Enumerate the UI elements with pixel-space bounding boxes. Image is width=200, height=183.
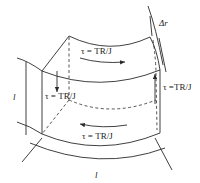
thickness-line-outer xyxy=(148,6,163,65)
top-back-arc xyxy=(69,36,150,46)
width-ext-left xyxy=(22,138,42,162)
bottom-stress-arrow xyxy=(80,124,127,127)
thickness-line-inner xyxy=(159,38,166,72)
hidden-bottom-left-edge xyxy=(42,100,69,134)
height-ext-bottom xyxy=(17,122,42,134)
hidden-back-bottom-arc xyxy=(69,100,156,109)
front-top-arc xyxy=(42,70,160,82)
left-stress-label: τ = TR/J xyxy=(45,92,76,101)
height-ext-top xyxy=(17,58,42,71)
thickness-ext xyxy=(150,16,152,36)
top-stress-label: τ = TR/J xyxy=(81,47,112,56)
right-stress-label: τ =TR/J xyxy=(163,83,191,92)
bottom-stress-label: τ = TR/J xyxy=(82,132,113,141)
width-ext-right xyxy=(155,138,172,170)
height-dimension-label: l xyxy=(13,93,16,102)
thickness-label: Δr xyxy=(159,19,168,28)
top-left-edge xyxy=(42,36,69,71)
width-dimension-label: l xyxy=(95,171,98,180)
top-stress-arrow xyxy=(80,58,125,63)
